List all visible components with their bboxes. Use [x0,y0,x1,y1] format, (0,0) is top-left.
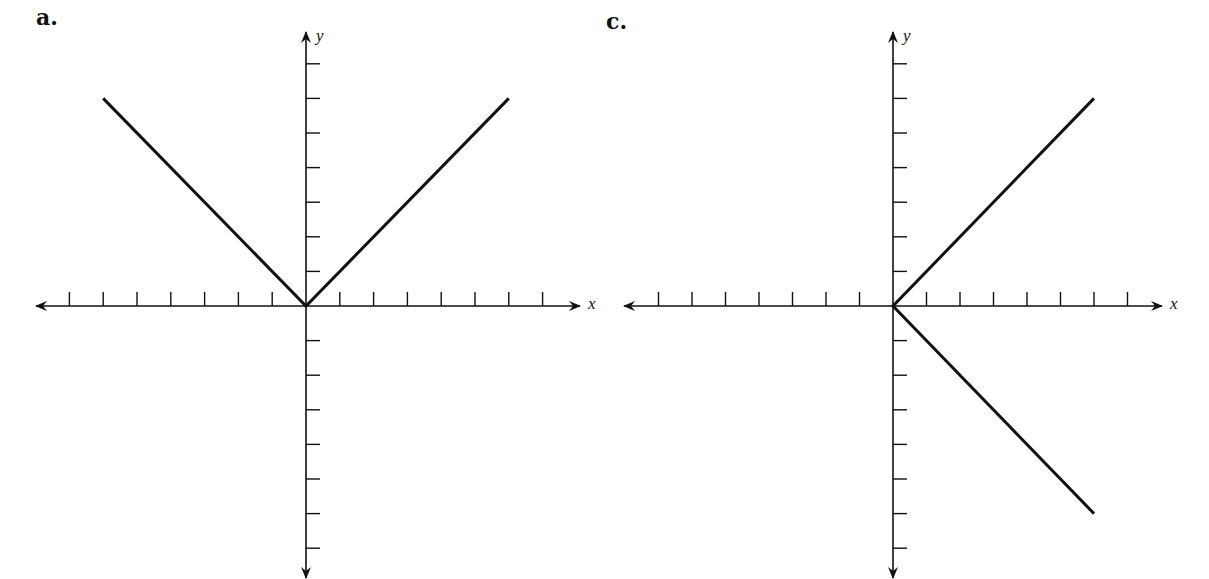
panel-c [624,32,1162,578]
plot-canvas [0,0,1209,579]
panel-a [36,32,580,578]
